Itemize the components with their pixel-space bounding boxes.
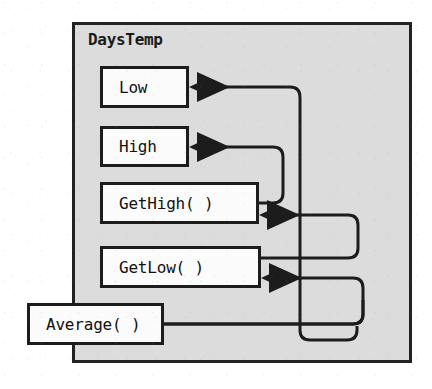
arrowhead-overlay <box>0 0 432 389</box>
class-diagram: DaysTemp Low High G <box>0 0 432 389</box>
arrowhead-gethigh <box>259 209 272 221</box>
arrowhead-high <box>189 141 202 153</box>
arrowhead-getlow <box>261 272 274 284</box>
arrowhead-low <box>189 81 202 93</box>
